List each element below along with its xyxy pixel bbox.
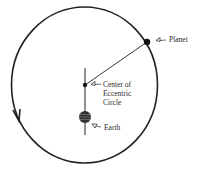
radius-line xyxy=(85,42,147,85)
center-pointer-icon xyxy=(91,82,101,86)
earth-label: Earth xyxy=(104,123,120,132)
planet-label: Planet xyxy=(169,35,189,44)
planet-point xyxy=(144,39,150,45)
orbit-direction-arrow-icon xyxy=(13,109,20,121)
earth-pointer-icon xyxy=(92,124,101,128)
center-point xyxy=(83,83,87,87)
center-label-line3: Circle xyxy=(103,98,122,107)
planet-pointer-icon xyxy=(156,38,166,42)
center-label-line2: Eccentric xyxy=(103,89,132,98)
earth-icon xyxy=(79,111,91,123)
center-label-line1: Center of xyxy=(103,80,132,89)
eccentric-circle-diagram: Planet Center of Eccentric Circle Earth xyxy=(0,0,199,169)
